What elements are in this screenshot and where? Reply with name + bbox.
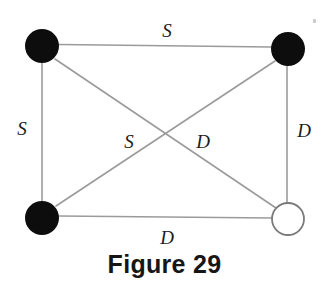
figure-29-container: S S D D D S Figure 29 <box>0 0 329 284</box>
edge-top <box>59 45 271 48</box>
edge-label-diagonal-topleft-bottomright: D <box>196 132 210 151</box>
graph-edges <box>42 45 287 219</box>
node-bottom-left[interactable] <box>25 201 59 235</box>
edge-label-diagonal-bottomleft-topright: S <box>124 132 134 151</box>
scan-artifact-speck <box>313 19 316 23</box>
graph-nodes <box>25 29 305 235</box>
edge-label-right: D <box>297 121 311 140</box>
figure-caption: Figure 29 <box>0 250 329 279</box>
edge-label-bottom: D <box>160 228 174 247</box>
edge-label-left: S <box>17 119 27 138</box>
node-top-right[interactable] <box>271 32 305 66</box>
node-top-left[interactable] <box>25 29 59 63</box>
node-bottom-right-open[interactable] <box>272 203 304 235</box>
edge-label-top: S <box>162 21 172 40</box>
edge-bottom <box>59 216 272 218</box>
